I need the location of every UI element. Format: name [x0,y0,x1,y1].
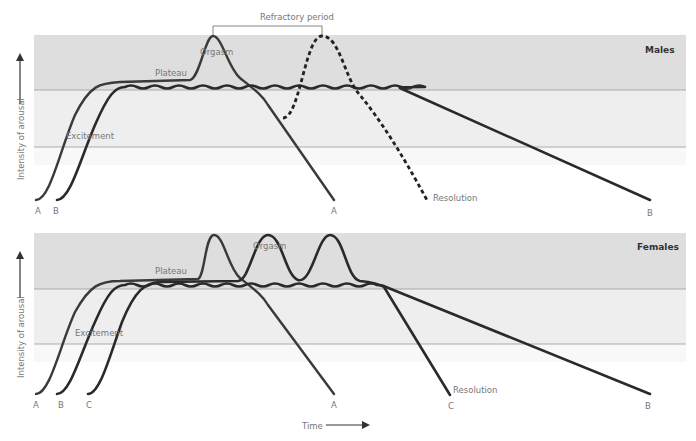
male-orgasm-label: Orgasm [200,47,233,57]
arrow-up-icon [16,53,24,61]
female-excitement-zone-band [34,289,686,344]
females-panel: Females Plateau Orgasm Excitement Resolu… [16,233,686,431]
male-plateau-label: Plateau [155,68,187,78]
female-end-label-c: C [448,401,454,411]
refractory-period-label: Refractory period [260,12,334,22]
female-orgasm-label: Orgasm [253,241,286,251]
female-plateau-label: Plateau [155,266,187,276]
male-end-label-a: A [331,206,337,216]
female-y-axis-label: Intensity of arousal [16,296,26,378]
male-y-axis-label: Intensity of arousal [16,98,26,180]
female-end-label-b: B [645,401,651,411]
male-resolution-label: Resolution [433,193,477,203]
female-excitement-label: Excitement [75,328,124,338]
excitement-zone-band [34,90,686,147]
males-panel: Refractory period Males Plateau Orgasm E… [16,12,686,218]
arrow-up-icon [16,251,24,259]
male-excitement-label: Excitement [66,131,115,141]
female-end-label-a: A [331,400,337,410]
females-title: Females [637,242,679,252]
x-axis-label: Time [301,421,323,431]
male-start-label-a: A [35,206,41,216]
female-resolution-label: Resolution [453,385,497,395]
refractory-bracket [213,26,322,36]
sexual-response-cycle-diagram: Refractory period Males Plateau Orgasm E… [0,0,696,441]
female-start-label-c: C [86,400,92,410]
arrow-right-icon [362,421,370,429]
female-start-label-b: B [58,400,64,410]
male-end-label-b: B [647,208,653,218]
male-start-label-b: B [53,206,59,216]
males-title: Males [645,45,675,55]
female-start-label-a: A [33,400,39,410]
